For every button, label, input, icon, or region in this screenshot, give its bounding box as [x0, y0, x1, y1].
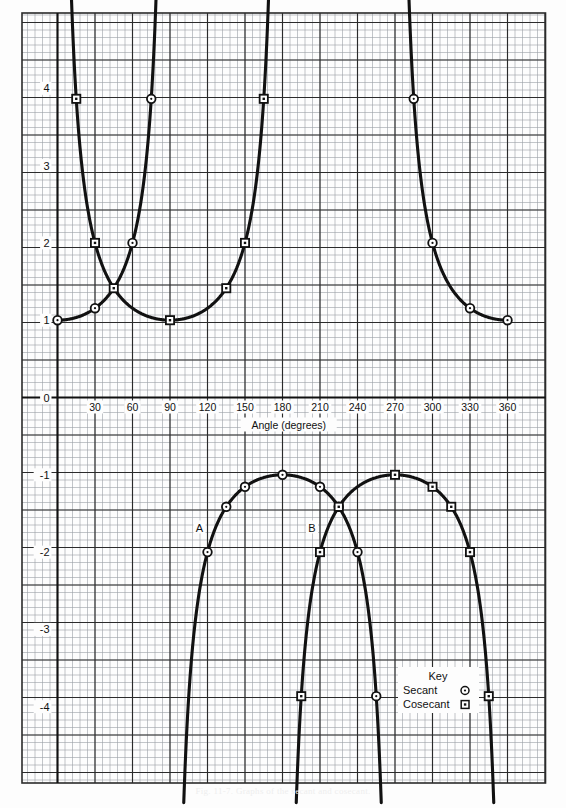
square-marker-dot [431, 486, 433, 488]
circle-marker-dot [131, 242, 133, 244]
x-tick-label-180: 180 [274, 401, 292, 413]
curve-label-a: A [196, 522, 204, 534]
circle-marker-dot [506, 319, 508, 321]
square-marker-dot [450, 506, 452, 508]
figure-stage: 30609012015018021024027030033036043210-1… [0, 0, 566, 808]
circle-marker-dot [413, 98, 415, 100]
circle-marker-dot [244, 486, 246, 488]
square-marker-dot [464, 703, 466, 705]
square-marker-dot [338, 506, 340, 508]
y-tick-label--2: -2 [40, 546, 50, 558]
square-marker-dot [244, 242, 246, 244]
square-marker-dot [263, 98, 265, 100]
legend-label-secant: Secant [403, 684, 437, 696]
square-marker-dot [469, 551, 471, 553]
curve-label-b: B [308, 522, 315, 534]
circle-marker-dot [431, 242, 433, 244]
square-marker-dot [113, 287, 115, 289]
square-marker-dot [319, 551, 321, 553]
circle-marker-dot [94, 307, 96, 309]
circle-marker-dot [375, 695, 377, 697]
circle-marker-dot [469, 307, 471, 309]
x-axis-title: Angle (degrees) [251, 419, 326, 431]
x-tick-label-30: 30 [89, 401, 101, 413]
y-tick-label--4: -4 [40, 701, 50, 713]
figure-caption: Fig. 11-7. Graphs of the secant and cose… [0, 786, 566, 796]
circle-marker-dot [281, 474, 283, 476]
legend-title: Key [429, 670, 448, 682]
y-tick-label-0: 0 [43, 392, 49, 404]
legend: KeySecantCosecant [398, 667, 479, 713]
x-tick-label-60: 60 [127, 401, 139, 413]
x-tick-label-330: 330 [461, 401, 479, 413]
y-tick-label-4: 4 [43, 82, 49, 94]
circle-marker-dot [319, 486, 321, 488]
circle-marker-dot [206, 551, 208, 553]
x-tick-label-240: 240 [349, 401, 367, 413]
circle-marker-dot [56, 319, 58, 321]
square-marker-dot [94, 242, 96, 244]
circle-marker-dot [225, 506, 227, 508]
square-marker-dot [169, 319, 171, 321]
x-tick-label-270: 270 [386, 401, 404, 413]
y-tick-label-3: 3 [43, 160, 49, 172]
secant-cosecant-graph: 30609012015018021024027030033036043210-1… [0, 0, 566, 808]
x-tick-label-360: 360 [499, 401, 517, 413]
circle-marker-dot [464, 689, 466, 691]
x-tick-label-120: 120 [199, 401, 217, 413]
y-tick-label--3: -3 [40, 623, 50, 635]
x-tick-label-210: 210 [311, 401, 329, 413]
circle-marker-dot [150, 98, 152, 100]
x-tick-label-150: 150 [236, 401, 254, 413]
y-tick-label--1: -1 [40, 469, 50, 481]
y-tick-label-1: 1 [43, 314, 49, 326]
y-tick-label-2: 2 [43, 237, 49, 249]
legend-label-cosecant: Cosecant [403, 698, 449, 710]
x-tick-label-300: 300 [424, 401, 442, 413]
square-marker-dot [225, 287, 227, 289]
x-tick-label-90: 90 [164, 401, 176, 413]
circle-marker-dot [356, 551, 358, 553]
square-marker-dot [300, 695, 302, 697]
square-marker-dot [488, 695, 490, 697]
square-marker-dot [394, 474, 396, 476]
square-marker-dot [75, 98, 77, 100]
